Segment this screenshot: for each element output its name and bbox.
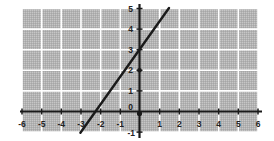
x-tick-label-neg4: -4 — [58, 119, 66, 129]
x-tick-label-4: 4 — [216, 119, 221, 129]
origin-marker — [137, 111, 142, 116]
x-tick-label-6: 6 — [256, 119, 261, 129]
y-intercept-marker — [137, 68, 142, 73]
x-tick-label-neg3: -3 — [77, 119, 85, 129]
y-tick-label-1: 1 — [128, 86, 133, 96]
graph-canvas: -6 -5 -4 -3 -2 -1 1 2 3 4 5 6 0 5 4 3 2 … — [0, 0, 274, 141]
x-tick-label-neg2: -2 — [97, 119, 105, 129]
x-tick-label-3: 3 — [197, 119, 202, 129]
x-tick-label-neg6: -6 — [18, 119, 26, 129]
origin-label: 0 — [128, 102, 133, 112]
y-tick-label-2: 2 — [128, 65, 133, 75]
coordinate-graph: -6 -5 -4 -3 -2 -1 1 2 3 4 5 6 0 5 4 3 2 … — [0, 0, 274, 141]
x-tick-label-neg5: -5 — [38, 119, 46, 129]
y-tick-label-neg1: -1 — [127, 128, 135, 138]
y-tick-label-4: 4 — [128, 24, 133, 34]
x-tick-label-neg1: -1 — [117, 119, 125, 129]
y-tick-label-5: 5 — [128, 4, 133, 14]
x-tick-label-1: 1 — [157, 119, 162, 129]
x-tick-label-5: 5 — [236, 119, 241, 129]
y-tick-label-3: 3 — [128, 45, 133, 55]
x-tick-label-2: 2 — [177, 119, 182, 129]
